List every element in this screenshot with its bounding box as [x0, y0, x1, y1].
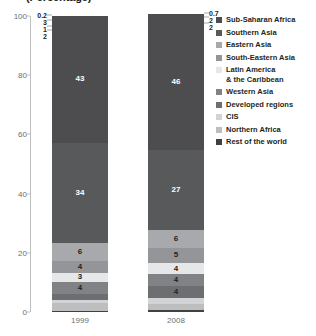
bar-segment[interactable]	[148, 310, 204, 312]
segment-value-label: 27	[172, 186, 181, 194]
y-tick-mark	[27, 16, 30, 17]
legend-item[interactable]: South-Eastern Asia	[216, 53, 316, 63]
legend-swatch-icon	[216, 89, 222, 95]
segment-value-label: 34	[76, 189, 85, 197]
y-tick-mark	[27, 252, 30, 253]
y-tick-label: 20	[18, 248, 27, 257]
bar-segment[interactable]: 34	[52, 143, 108, 244]
callout-leader-line	[204, 22, 209, 23]
plot-area: 020406080100 433464340.2312 4627654440.7…	[30, 16, 210, 312]
bar-segment[interactable]: 46	[148, 14, 204, 150]
legend-label: Developed regions	[226, 100, 293, 110]
y-tick-mark	[27, 312, 30, 313]
legend-swatch-icon	[216, 17, 222, 23]
legend-swatch-icon	[216, 42, 222, 48]
legend-swatch-icon	[216, 114, 222, 120]
segment-value-label: 46	[172, 78, 181, 86]
legend-swatch-icon	[216, 30, 222, 36]
y-tick-label: 100	[14, 12, 27, 21]
y-tick-label: 80	[18, 71, 27, 80]
legend-item[interactable]: Eastern Asia	[216, 40, 316, 50]
segment-value-label: 6	[78, 248, 82, 256]
chart-legend: Sub-Saharan AfricaSouthern AsiaEastern A…	[216, 15, 316, 150]
stacked-bar-2008[interactable]: 4627654440.722	[148, 14, 204, 312]
segment-value-label: 6	[174, 235, 178, 243]
bar-segment[interactable]: 5	[148, 248, 204, 263]
segment-value-label: 4	[78, 263, 82, 271]
callout-leader-line	[47, 15, 52, 16]
legend-swatch-icon	[216, 102, 222, 108]
y-tick-label: 40	[18, 189, 27, 198]
y-tick-mark	[27, 75, 30, 76]
legend-item[interactable]: Sub-Saharan Africa	[216, 15, 316, 25]
y-tick-mark	[27, 134, 30, 135]
callout-leader-line	[204, 13, 209, 14]
legend-swatch-icon	[216, 55, 222, 61]
x-label-2008: 2008	[148, 316, 204, 325]
segment-value-label: 4	[174, 288, 178, 296]
legend-label: CIS	[226, 112, 239, 122]
bar-segment[interactable]	[52, 311, 108, 312]
bar-segment[interactable]: 4	[148, 274, 204, 286]
bar-segment[interactable]: 4	[52, 261, 108, 273]
legend-item[interactable]: Rest of the world	[216, 137, 316, 147]
legend-label: Northern Africa	[226, 125, 281, 135]
legend-item[interactable]: Western Asia	[216, 87, 316, 97]
bar-segment[interactable]: 3	[52, 273, 108, 282]
chart-title: (Percentage)	[26, 0, 91, 3]
bar-segment[interactable]: 6	[52, 243, 108, 261]
legend-label: Eastern Asia	[226, 40, 271, 50]
legend-label: Southern Asia	[226, 28, 277, 38]
bar-segment[interactable]: 6	[148, 230, 204, 248]
legend-swatch-icon	[216, 139, 222, 145]
y-tick-label: 60	[18, 130, 27, 139]
bar-segment[interactable]: 27	[148, 150, 204, 230]
bar-segment[interactable]: 4	[148, 286, 204, 298]
legend-swatch-icon	[216, 67, 222, 73]
legend-label: Rest of the world	[226, 137, 287, 147]
segment-value-label: 43	[76, 75, 85, 83]
legend-label: Sub-Saharan Africa	[226, 15, 295, 25]
segment-callout-label: 0.2	[37, 12, 47, 19]
legend-label: South-Eastern Asia	[226, 53, 295, 63]
callout-leader-line	[47, 30, 52, 31]
x-label-1999: 1999	[52, 316, 108, 325]
y-axis-line	[30, 16, 31, 312]
legend-item[interactable]: Northern Africa	[216, 125, 316, 135]
legend-item[interactable]: CIS	[216, 112, 316, 122]
segment-value-label: 3	[78, 273, 82, 281]
callout-leader-line	[204, 16, 209, 17]
bar-segment[interactable]	[52, 303, 108, 312]
legend-item[interactable]: Latin America & the Caribbean	[216, 65, 316, 84]
legend-label: Latin America & the Caribbean	[226, 65, 284, 84]
segment-callout-label: 2	[43, 33, 47, 40]
y-tick-mark	[27, 193, 30, 194]
bar-segment[interactable]: 4	[52, 282, 108, 294]
legend-swatch-icon	[216, 127, 222, 133]
segment-value-label: 4	[174, 265, 178, 273]
legend-item[interactable]: Southern Asia	[216, 28, 316, 38]
segment-callout-label: 2	[209, 23, 213, 30]
bar-segment[interactable]: 4	[148, 263, 204, 275]
stacked-bar-1999[interactable]: 433464340.2312	[52, 16, 108, 312]
segment-value-label: 4	[78, 284, 82, 292]
legend-item[interactable]: Developed regions	[216, 100, 316, 110]
bar-segment[interactable]: 43	[52, 16, 108, 143]
segment-value-label: 4	[174, 276, 178, 284]
callout-leader-line	[47, 19, 52, 20]
segment-value-label: 5	[174, 251, 178, 259]
legend-label: Western Asia	[226, 87, 273, 97]
segment-callout-label: 2	[209, 16, 213, 23]
callout-leader-line	[47, 25, 52, 26]
